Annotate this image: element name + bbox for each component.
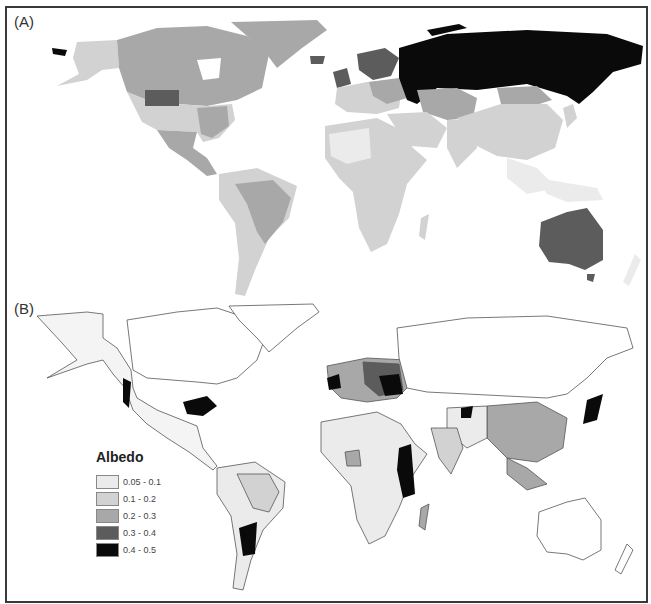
- region-india-b: [431, 428, 463, 474]
- region-australia: [539, 208, 603, 270]
- legend-label: 0.05 - 0.1: [123, 477, 161, 487]
- panel-b-label: (B): [14, 300, 34, 317]
- figure-frame: (A): [5, 6, 648, 603]
- legend-label: 0.1 - 0.2: [123, 494, 156, 504]
- legend-swatch: [96, 509, 119, 523]
- legend-swatch: [96, 543, 119, 557]
- legend-item: 0.05 - 0.1: [96, 473, 186, 490]
- region-canada: [117, 26, 269, 106]
- legend-label: 0.3 - 0.4: [123, 528, 156, 538]
- choropleth-map-a: [7, 8, 646, 298]
- legend-swatch: [96, 526, 119, 540]
- legend-label: 0.4 - 0.5: [123, 545, 156, 555]
- legend-title: Albedo: [96, 449, 186, 465]
- panel-a: (A): [7, 8, 646, 298]
- panel-a-label: (A): [14, 13, 34, 30]
- legend-swatch: [96, 492, 119, 506]
- legend-item: 0.3 - 0.4: [96, 524, 186, 541]
- legend-item: 0.2 - 0.3: [96, 507, 186, 524]
- legend-swatch: [96, 475, 119, 489]
- cluster-us-east: [183, 396, 217, 416]
- region-russia-b: [397, 316, 633, 398]
- region-china-b: [487, 402, 567, 462]
- region-alaska: [57, 40, 119, 86]
- legend-item: 0.1 - 0.2: [96, 490, 186, 507]
- region-india: [447, 120, 477, 168]
- legend-label: 0.2 - 0.3: [123, 511, 156, 521]
- legend-item: 0.4 - 0.5: [96, 541, 186, 558]
- albedo-legend: Albedo 0.05 - 0.1 0.1 - 0.2 0.2 - 0.3 0.…: [96, 449, 186, 558]
- region-usa-plains: [145, 90, 179, 106]
- region-scandinavia: [357, 48, 399, 80]
- region-australia-b: [537, 498, 601, 560]
- cluster-japan: [583, 394, 603, 424]
